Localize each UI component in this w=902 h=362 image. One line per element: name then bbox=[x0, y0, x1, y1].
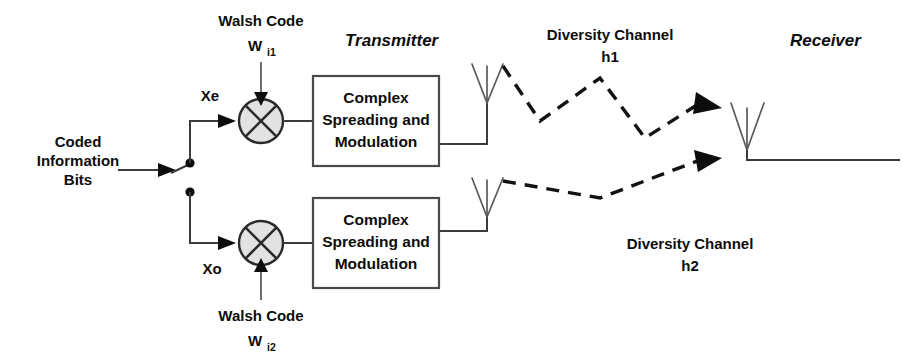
lower-antenna-left-prong bbox=[472, 178, 487, 217]
upper-walsh-code-label: Walsh Code bbox=[218, 12, 303, 29]
lower-walsh-code-label: Walsh Code bbox=[218, 307, 303, 324]
lower-block-line-3: Modulation bbox=[335, 255, 418, 272]
upper-branch-signal-label: Xe bbox=[201, 87, 219, 104]
lower-block-line-1: Complex bbox=[343, 211, 409, 228]
lower-walsh-symbol: W bbox=[248, 332, 263, 349]
upper-walsh-symbol: W bbox=[248, 37, 263, 54]
lower-antenna-right-prong bbox=[487, 178, 503, 217]
input-arrowhead bbox=[158, 163, 176, 177]
lower-branch-wire bbox=[190, 192, 218, 243]
lower-walsh-subscript: i2 bbox=[267, 341, 276, 353]
upper-block-line-3: Modulation bbox=[335, 133, 418, 150]
system-block-diagram: Transmitter Receiver Coded Information B… bbox=[0, 0, 902, 362]
lower-channel-arrowhead bbox=[694, 150, 722, 172]
upper-branch-wire bbox=[190, 121, 218, 163]
input-label-line-3: Bits bbox=[64, 171, 92, 188]
upper-walsh-subscript: i1 bbox=[267, 46, 276, 58]
upper-block-line-1: Complex bbox=[343, 89, 409, 106]
upper-block-line-2: Spreading and bbox=[322, 111, 430, 128]
lower-antenna-feed-wire bbox=[439, 217, 487, 231]
upper-channel-label: Diversity Channel bbox=[547, 26, 674, 43]
upper-channel-arrowhead bbox=[693, 92, 722, 114]
lower-branch-signal-label: Xo bbox=[202, 260, 221, 277]
rx-antenna-left-prong bbox=[731, 103, 747, 150]
transmitter-section-title: Transmitter bbox=[345, 31, 440, 50]
lower-block-line-2: Spreading and bbox=[322, 233, 430, 250]
block-diagram-canvas: Transmitter Receiver Coded Information B… bbox=[0, 0, 902, 362]
lower-diversity-channel-path bbox=[503, 160, 700, 198]
lower-channel-gain: h2 bbox=[681, 257, 699, 274]
input-label-line-2: Information bbox=[37, 152, 120, 169]
rx-antenna-output-wire bbox=[747, 150, 900, 160]
input-label-line-1: Coded bbox=[55, 133, 102, 150]
receiver-section-title: Receiver bbox=[790, 31, 862, 50]
upper-antenna-left-prong bbox=[472, 64, 487, 103]
upper-diversity-channel-path bbox=[503, 66, 700, 138]
upper-antenna-feed-wire bbox=[439, 103, 487, 144]
upper-channel-gain: h1 bbox=[601, 48, 619, 65]
rx-antenna-right-prong bbox=[747, 103, 764, 150]
upper-branch-arrowhead bbox=[218, 114, 236, 128]
lower-branch-arrowhead bbox=[218, 236, 236, 250]
lower-channel-label: Diversity Channel bbox=[627, 235, 754, 252]
upper-antenna-right-prong bbox=[487, 64, 503, 103]
